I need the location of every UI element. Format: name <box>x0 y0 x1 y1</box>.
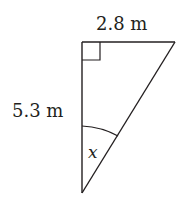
triangle <box>82 42 175 193</box>
hypotenuse <box>82 42 175 193</box>
left-side-label: 5.3 m <box>12 100 63 121</box>
triangle-diagram: 2.8 m 5.3 m x <box>0 0 189 204</box>
angle-arc <box>82 126 118 136</box>
angle-label: x <box>88 142 98 162</box>
right-angle-marker <box>82 42 100 60</box>
top-side-label: 2.8 m <box>96 13 147 34</box>
